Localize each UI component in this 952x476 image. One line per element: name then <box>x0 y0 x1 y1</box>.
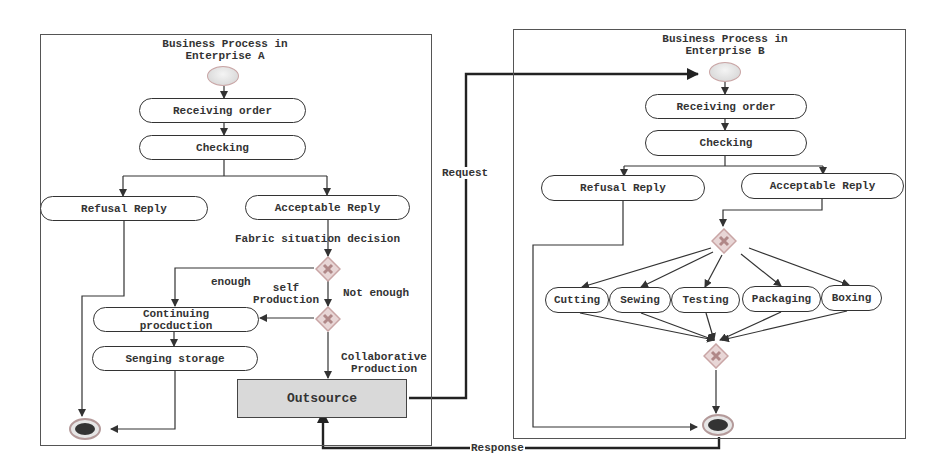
task-refusal-reply-a[interactable]: Refusal Reply <box>40 196 208 221</box>
label-collab-line2: Production <box>334 363 434 375</box>
gateway-parallel-join-icon <box>703 343 729 369</box>
start-event-b <box>709 62 741 82</box>
task-receiving-order-b[interactable]: Receiving order <box>645 94 807 119</box>
enterprise-b-pool <box>513 29 906 439</box>
task-label: Receiving order <box>676 101 775 113</box>
task-label: Packaging <box>752 293 811 305</box>
label-response: Response <box>470 442 525 454</box>
task-label: Outsource <box>287 391 357 406</box>
enterprise-b-title-line1: Business Process in <box>630 33 820 45</box>
task-boxing[interactable]: Boxing <box>821 285 882 311</box>
enterprise-a-title: Business Process in Enterprise A <box>130 38 320 62</box>
task-label: Refusal Reply <box>81 203 167 215</box>
label-enough: enough <box>211 276 251 288</box>
task-receiving-order-a[interactable]: Receiving order <box>139 98 306 123</box>
gateway-production-mode-icon <box>315 306 341 332</box>
task-label: Sewing <box>620 294 660 306</box>
task-testing[interactable]: Testing <box>671 287 740 313</box>
start-event-a <box>207 66 239 86</box>
label-collab-line1: Collaborative <box>334 351 434 363</box>
end-event-core <box>75 423 95 435</box>
enterprise-a-title-line1: Business Process in <box>130 38 320 50</box>
end-event-core <box>708 419 728 431</box>
task-outsource[interactable]: Outsource <box>237 379 407 418</box>
task-label: Senging storage <box>125 353 224 365</box>
task-acceptable-reply-a[interactable]: Acceptable Reply <box>245 195 410 220</box>
task-label: Boxing <box>832 292 872 304</box>
enterprise-b-title-line2: Enterprise B <box>630 45 820 57</box>
task-label: Acceptable Reply <box>275 202 381 214</box>
task-label: Testing <box>682 294 728 306</box>
enterprise-b-title: Business Process in Enterprise B <box>630 33 820 57</box>
task-sending-storage[interactable]: Senging storage <box>92 346 258 371</box>
task-checking-b[interactable]: Checking <box>645 130 807 156</box>
task-label-line2: procduction <box>140 320 213 332</box>
task-label: Cutting <box>554 294 600 306</box>
label-fabric-decision: Fabric situation decision <box>235 233 400 245</box>
task-label-line1: Continuing <box>140 308 213 320</box>
gateway-parallel-split-icon <box>711 228 737 254</box>
task-cutting[interactable]: Cutting <box>545 287 609 313</box>
task-acceptable-reply-b[interactable]: Acceptable Reply <box>741 173 904 199</box>
task-label: Acceptable Reply <box>770 180 876 192</box>
task-packaging[interactable]: Packaging <box>742 286 821 312</box>
task-label: Receiving order <box>173 105 272 117</box>
label-self-production: self Production <box>246 282 326 306</box>
task-checking-a[interactable]: Checking <box>139 135 306 160</box>
task-label: Refusal Reply <box>580 182 666 194</box>
enterprise-a-title-line2: Enterprise A <box>130 50 320 62</box>
end-event-a <box>69 418 101 440</box>
label-request: Request <box>440 167 490 179</box>
label-not-enough: Not enough <box>343 287 409 299</box>
label-self-production-line2: Production <box>246 294 326 306</box>
task-label: Checking <box>196 142 249 154</box>
end-event-b <box>702 414 734 436</box>
task-continuing-production[interactable]: Continuing procduction <box>93 307 259 332</box>
task-label: Checking <box>700 137 753 149</box>
label-collaborative-production: Collaborative Production <box>334 351 434 375</box>
task-refusal-reply-b[interactable]: Refusal Reply <box>541 175 705 201</box>
task-sewing[interactable]: Sewing <box>609 287 671 313</box>
label-self-production-line1: self <box>246 282 326 294</box>
gateway-fabric-decision-icon <box>315 256 341 282</box>
